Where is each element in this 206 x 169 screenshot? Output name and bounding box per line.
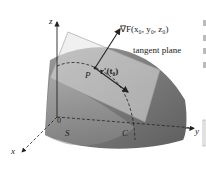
x-axis-label: x [11,146,15,156]
curve-C-label: C [122,128,128,138]
point-P-dot [94,67,97,70]
origin-label: 0 [57,116,61,125]
z-axis-label: z [49,16,53,26]
point-P-label: P [85,70,91,80]
tangent-plane-figure: z y x 0 ∇F(x₀, y₀, z₀) tangent plane P r… [0,0,206,169]
y-axis-label: y [195,126,199,136]
figure-graphics [0,0,206,169]
gradient-label: ∇F(x₀, y₀, z₀) [120,24,168,34]
surface-S-label: S [65,128,70,138]
tangent-plane-label: tangent plane [133,45,181,55]
tangent-vector-label: r′(t₀) [100,66,118,76]
